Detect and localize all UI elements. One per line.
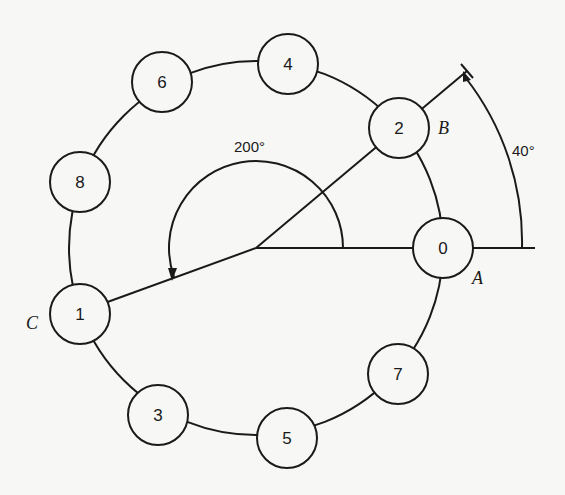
node-4: 4	[258, 34, 318, 94]
point-label-a: A	[471, 268, 484, 288]
node-0: 0	[413, 218, 473, 278]
angle-label-40: 40°	[512, 142, 535, 159]
node-2: 2	[369, 98, 429, 158]
node-1: 1	[50, 284, 110, 344]
angle-arc-40	[465, 77, 522, 248]
node-7: 7	[368, 344, 428, 404]
svg-text:4: 4	[283, 55, 292, 74]
svg-text:2: 2	[394, 119, 403, 138]
svg-text:5: 5	[282, 429, 291, 448]
node-5: 5	[257, 408, 317, 468]
svg-text:8: 8	[75, 173, 84, 192]
point-label-b: B	[438, 118, 449, 138]
node-3: 3	[128, 385, 188, 445]
point-label-c: C	[26, 313, 39, 333]
svg-text:1: 1	[75, 305, 84, 324]
svg-text:6: 6	[157, 73, 166, 92]
svg-text:3: 3	[153, 406, 162, 425]
svg-text:7: 7	[393, 365, 402, 384]
svg-text:0: 0	[438, 239, 447, 258]
angle-label-200: 200°	[234, 138, 265, 155]
node-6: 6	[132, 52, 192, 112]
diagram: 0 2 4 6 8 1 3 5	[0, 0, 565, 495]
node-8: 8	[50, 152, 110, 212]
arrowhead-40-icon	[463, 71, 471, 82]
angle-arc-200	[169, 161, 343, 277]
